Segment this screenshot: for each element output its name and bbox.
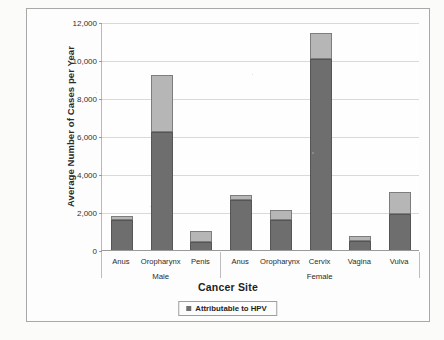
gridline [102, 175, 419, 176]
group-label-female: Female [307, 272, 333, 281]
y-axis-tick-mark [99, 175, 102, 176]
legend-label: Attributable to HPV [195, 304, 266, 313]
gridline [102, 137, 419, 138]
category-label-female-oropharynx: Oropharynx [260, 257, 300, 266]
bar-male-oropharynx[interactable] [151, 75, 173, 250]
bar-segment-other [389, 192, 411, 214]
bar-female-anus[interactable] [230, 195, 252, 250]
y-axis-tick-label: 12,000 [73, 19, 97, 28]
chart-legend[interactable]: Attributable to HPV [178, 301, 277, 316]
axis-group-separator [220, 252, 221, 278]
bar-segment-other [151, 75, 173, 132]
axis-group-separator [419, 252, 420, 278]
y-axis-tick-mark [99, 23, 102, 24]
plot-inner: 12,00010,0008,0006,0004,0002,0000 [101, 23, 419, 251]
scan-artifact [96, 92, 97, 93]
gridline [102, 213, 419, 214]
category-label-male-penis: Penis [191, 257, 210, 266]
y-axis-title: Average Number of Cases per Year [65, 22, 76, 232]
bar-male-penis[interactable] [190, 231, 212, 250]
plot-area: 12,00010,0008,0006,0004,0002,0000 AnusOr… [101, 23, 419, 251]
y-axis-tick-label: 2,000 [77, 209, 97, 218]
y-axis-tick-mark [99, 99, 102, 100]
y-axis-tick-label: 10,000 [73, 57, 97, 66]
x-axis-title: Cancer Site [27, 281, 429, 293]
y-axis-tick-label: 4,000 [77, 171, 97, 180]
scan-artifact [312, 152, 314, 154]
category-label-male-oropharynx: Oropharynx [141, 257, 181, 266]
y-axis-tick-label: 0 [93, 247, 97, 256]
gridline [102, 61, 419, 62]
category-label-male-anus: Anus [112, 257, 129, 266]
scan-artifact [150, 206, 151, 207]
bar-female-vagina[interactable] [349, 236, 371, 250]
bar-segment-attributable-to-hpv [389, 214, 411, 250]
group-label-male: Male [152, 272, 169, 281]
bar-female-cervix[interactable] [310, 33, 332, 250]
bar-segment-attributable-to-hpv [230, 200, 252, 250]
gridline [102, 23, 419, 24]
bar-segment-attributable-to-hpv [111, 220, 133, 250]
axis-group-separator [101, 252, 102, 278]
bar-segment-other [270, 210, 292, 220]
legend-swatch-icon [186, 306, 191, 311]
bar-segment-attributable-to-hpv [190, 242, 212, 250]
bar-segment-attributable-to-hpv [270, 220, 292, 250]
bar-segment-attributable-to-hpv [151, 132, 173, 250]
y-axis-tick-mark [99, 137, 102, 138]
gridline [102, 99, 419, 100]
bar-male-anus[interactable] [111, 216, 133, 250]
bar-segment-attributable-to-hpv [310, 59, 332, 250]
category-label-female-vulva: Vulva [390, 257, 409, 266]
y-axis-tick-mark [99, 61, 102, 62]
y-axis-tick-label: 6,000 [77, 133, 97, 142]
bar-segment-other [190, 231, 212, 241]
chart-figure-frame: Average Number of Cases per Year 12,0001… [26, 8, 430, 322]
bar-segment-attributable-to-hpv [349, 241, 371, 250]
category-label-female-vagina: Vagina [348, 257, 371, 266]
category-label-female-anus: Anus [231, 257, 248, 266]
scan-artifact [252, 74, 253, 75]
bar-segment-other [310, 33, 332, 59]
scanned-page-background: Average Number of Cases per Year 12,0001… [0, 0, 444, 340]
y-axis-tick-mark [99, 213, 102, 214]
y-axis-tick-label: 8,000 [77, 95, 97, 104]
category-label-female-cervix: Cervix [309, 257, 331, 266]
bar-female-vulva[interactable] [389, 192, 411, 250]
bar-female-oropharynx[interactable] [270, 210, 292, 250]
